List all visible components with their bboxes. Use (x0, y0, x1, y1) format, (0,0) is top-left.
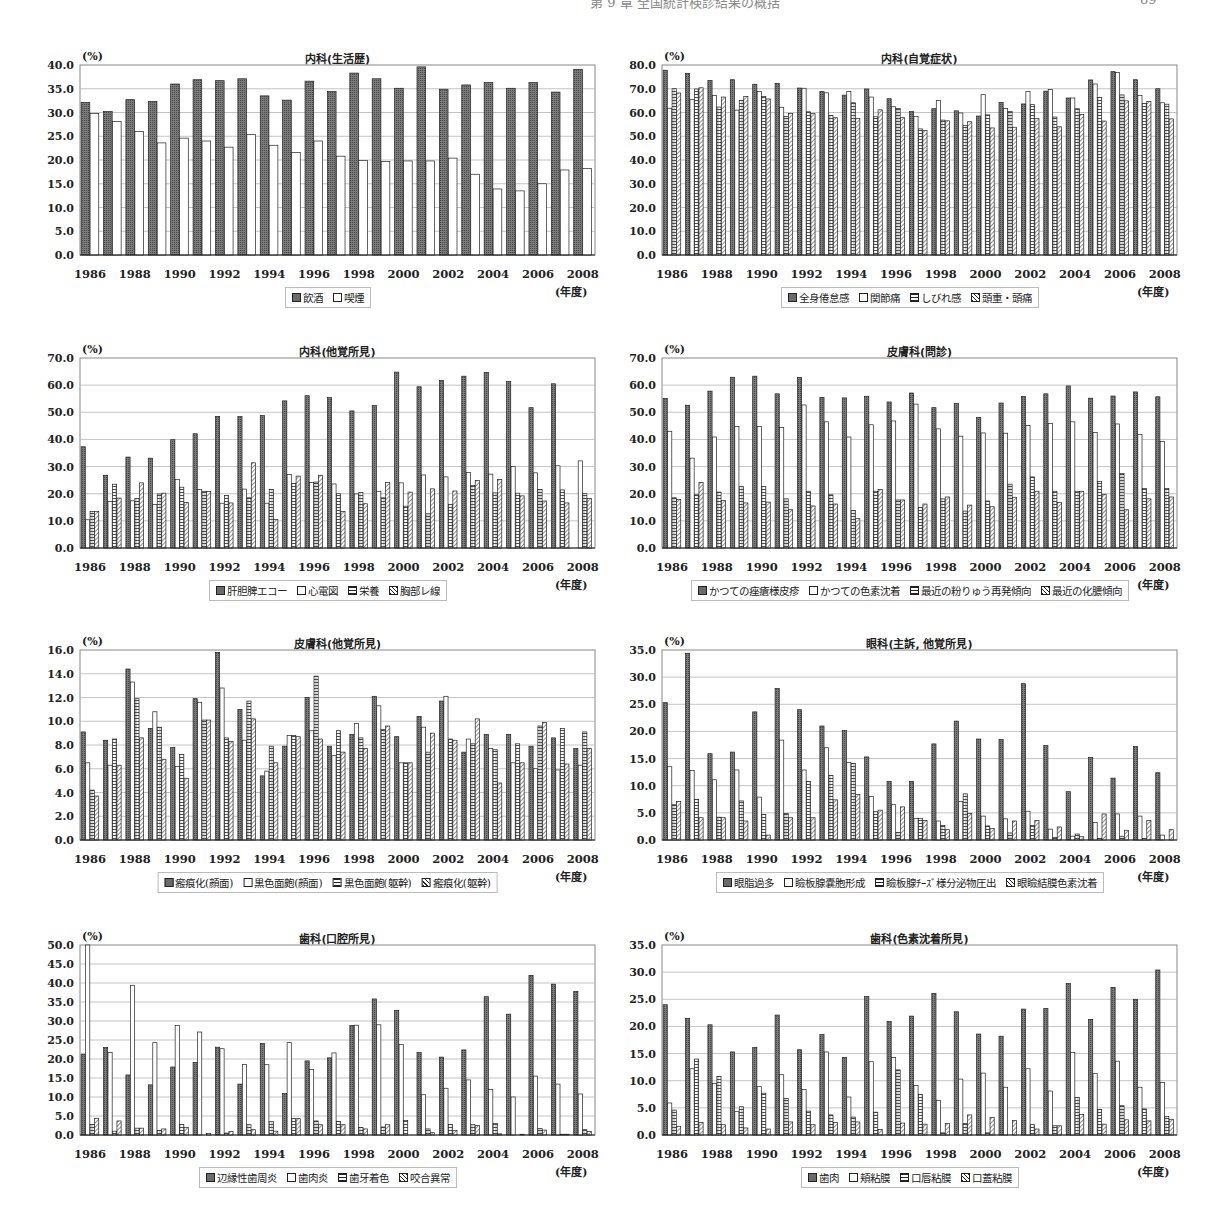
bar (341, 752, 345, 840)
bar (1066, 984, 1070, 1135)
bar (542, 501, 546, 548)
bar (784, 117, 788, 255)
bar (672, 498, 676, 548)
bar (1102, 494, 1106, 548)
legend-swatch-icon (216, 586, 225, 595)
bar (909, 112, 913, 255)
bar (556, 1084, 560, 1135)
bar (900, 807, 904, 840)
x-tick-label: 2002 (432, 560, 464, 574)
x-tick-label: 1992 (790, 852, 822, 866)
bar (1089, 398, 1093, 548)
y-tick-label: 25.0 (47, 130, 74, 143)
bar (744, 503, 748, 548)
bar (914, 117, 918, 255)
bar (157, 494, 161, 548)
bar (1021, 684, 1025, 840)
bar (1124, 101, 1128, 255)
bar (583, 494, 587, 548)
bar (1156, 89, 1160, 255)
bar (90, 1124, 94, 1135)
chart-internal-objective-findings: 0.010.020.030.040.050.060.070.0198619881… (30, 333, 610, 618)
bar (936, 100, 940, 255)
bar (811, 114, 815, 255)
bar (1169, 497, 1173, 548)
bar (583, 732, 587, 840)
bar (448, 505, 452, 548)
bar (126, 669, 130, 840)
y-tick-label: 25.0 (629, 698, 656, 711)
bar (856, 1122, 860, 1135)
bar (833, 504, 837, 548)
bar (269, 1122, 273, 1135)
bar (744, 821, 748, 840)
bar (90, 113, 99, 255)
y-tick-label: 10.0 (629, 780, 656, 793)
bar (802, 1089, 806, 1135)
bar (712, 437, 716, 548)
x-tick-label: 1990 (746, 852, 778, 866)
bar (507, 382, 511, 548)
bar (686, 73, 690, 255)
bar (471, 486, 475, 548)
chart-title: 内科(生活歴) (305, 50, 370, 66)
bar (108, 765, 112, 840)
bar (130, 501, 134, 548)
bar (717, 492, 721, 548)
x-tick-label: 1994 (253, 1147, 285, 1161)
x-tick-label: 1994 (835, 560, 867, 574)
bar (224, 147, 233, 255)
bar (686, 1018, 690, 1135)
bar (762, 487, 766, 548)
bar (363, 749, 367, 840)
bar (1102, 814, 1106, 840)
y-tick-label: 4.0 (55, 787, 74, 800)
bar (453, 1130, 457, 1135)
x-tick-label: 1998 (343, 1147, 375, 1161)
bar (318, 475, 322, 548)
bar (332, 1053, 336, 1135)
x-tick-label: 2006 (522, 1147, 554, 1161)
bar (489, 749, 493, 840)
bar (663, 70, 667, 255)
bar (484, 734, 488, 840)
bar (789, 1122, 793, 1135)
bar (1080, 1114, 1084, 1135)
legend-label: 咬合異常 (410, 1170, 450, 1185)
y-tick-label: 2.0 (55, 810, 74, 823)
bar (1142, 103, 1146, 255)
bar (1071, 98, 1075, 255)
bar (184, 778, 188, 840)
bar (117, 765, 121, 840)
bar (198, 1032, 202, 1135)
bar (981, 95, 985, 255)
x-axis-unit-label: (年度) (555, 576, 587, 592)
bar (381, 1127, 385, 1135)
bar (694, 799, 698, 840)
bar (1169, 119, 1173, 255)
bar (341, 1125, 345, 1135)
legend-swatch-icon (875, 878, 884, 887)
x-tick-label: 1992 (208, 852, 240, 866)
bar (896, 1070, 900, 1135)
bar (797, 88, 801, 255)
x-tick-label: 1986 (74, 560, 106, 574)
bar (914, 1086, 918, 1135)
bar (350, 1026, 354, 1135)
legend-swatch-icon (333, 293, 342, 302)
legend-swatch-icon (809, 586, 818, 595)
bar (914, 404, 918, 548)
bar (668, 767, 672, 840)
x-tick-label: 2002 (1014, 560, 1046, 574)
bar (153, 505, 157, 548)
bar (959, 436, 963, 548)
bar (180, 1124, 184, 1135)
bar (1053, 117, 1057, 255)
legend-item: 瘢痕化(躯幹) (422, 875, 491, 890)
bar (247, 701, 251, 840)
bar (806, 1111, 810, 1135)
bar (1030, 477, 1034, 548)
bar (247, 1125, 251, 1135)
x-tick-label: 1996 (880, 560, 912, 574)
bar (81, 103, 90, 255)
